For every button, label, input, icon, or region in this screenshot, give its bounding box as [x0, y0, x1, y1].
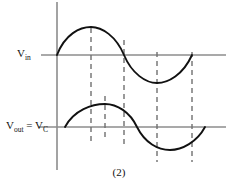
vout-label-sub: out — [14, 125, 24, 134]
waveform-figure: Vin Vout = VC (2) — [0, 0, 238, 188]
vout-label-equals: = — [24, 119, 36, 131]
vout-label-base: V — [6, 119, 14, 131]
vc-label-sub: C — [43, 125, 48, 134]
waveform-plot — [0, 0, 238, 188]
vout-axis-label: Vout = VC — [6, 120, 48, 131]
vin-label-base: V — [17, 47, 25, 59]
vin-label-sub: in — [25, 53, 31, 62]
vin-axis-label: Vin — [17, 48, 31, 59]
figure-caption: (2) — [0, 166, 238, 178]
vc-label-base: V — [35, 119, 43, 131]
